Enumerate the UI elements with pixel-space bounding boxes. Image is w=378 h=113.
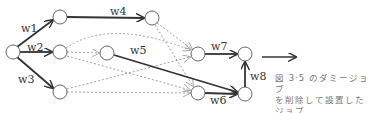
edge-w4 [67,17,144,18]
label-w5: w5 [130,44,146,57]
node-8 [238,47,252,61]
node-1 [53,10,67,24]
dummy-edge-n2-n5 [67,52,99,53]
node-start [6,45,20,59]
label-w6: w6 [210,94,226,107]
label-w7: w7 [211,40,227,53]
caption-line-2: を削除して設置した [275,95,375,106]
dummy-edges [66,23,193,93]
node-5 [100,46,114,60]
label-w4: w4 [110,5,126,18]
node-3 [53,85,67,99]
label-w8: w8 [250,70,266,83]
caption-line-1: 図 3·5 のダミージョブ [275,73,375,95]
caption: 図 3·5 のダミージョブ を削除して設置した ジョブ [275,73,375,113]
label-w3: w3 [18,73,34,86]
dummy-edge-n3-n7 [67,92,190,93]
node-6 [191,47,205,61]
label-w2: w2 [27,41,43,54]
dummy-edge-n2-n6 [66,33,190,50]
node-9 [238,87,252,101]
node-2 [53,45,67,59]
label-w1: w1 [21,22,37,35]
node-7 [191,86,205,100]
nodes [6,10,252,101]
node-4 [145,11,159,25]
caption-line-3: ジョブ [275,106,375,113]
